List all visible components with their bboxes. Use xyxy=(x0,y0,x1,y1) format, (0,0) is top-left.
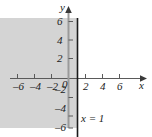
x-tick-label-neg2: –2 xyxy=(47,81,58,92)
y-tick-label-6: 6 xyxy=(57,16,63,27)
y-tick-label-neg6: –6 xyxy=(55,122,66,133)
coordinate-plane-svg xyxy=(0,0,152,137)
y-axis-label: y xyxy=(60,2,65,13)
shaded-region-x-le-1 xyxy=(0,18,78,128)
equation-label-x-equals-1: x = 1 xyxy=(81,113,104,124)
x-tick-label-2: 2 xyxy=(83,81,89,92)
y-tick-label-2: 2 xyxy=(57,53,63,64)
x-tick-label-6: 6 xyxy=(117,81,123,92)
graph-figure: 6 4 2 –2 –4 –6 0 –6 –4 –2 2 4 6 y x x = … xyxy=(0,0,152,137)
x-tick-label-4: 4 xyxy=(100,81,106,92)
x-axis-label: x xyxy=(139,80,144,91)
x-tick-label-neg4: –4 xyxy=(30,81,41,92)
y-tick-label-neg4: –4 xyxy=(55,103,66,114)
y-tick-label-4: 4 xyxy=(57,35,63,46)
origin-label: 0 xyxy=(62,79,68,90)
x-tick-label-neg6: –6 xyxy=(13,81,24,92)
